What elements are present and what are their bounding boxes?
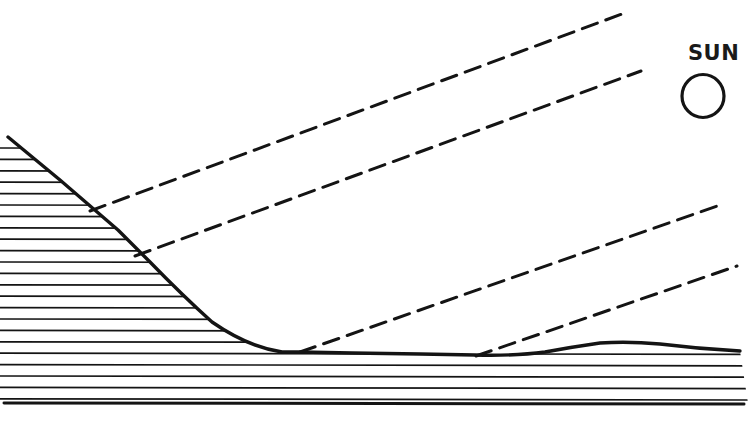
hatch-line — [0, 228, 748, 229]
hatch-line — [0, 285, 748, 286]
sun-label: SUN — [688, 41, 739, 65]
hatch-line — [0, 365, 748, 366]
ground-baseline — [4, 403, 744, 404]
hatch-line — [0, 239, 748, 240]
hatch-line — [0, 296, 748, 297]
hatch-line — [0, 159, 748, 160]
solar-terrain-diagram: SUN — [0, 0, 748, 421]
hatch-line — [0, 205, 748, 206]
solar-rays — [90, 14, 737, 356]
sun-symbol: SUN — [682, 41, 739, 118]
hatch-line — [0, 171, 748, 172]
hatch-line — [0, 262, 748, 263]
ground-hatching — [0, 148, 748, 400]
hatch-line — [0, 319, 748, 320]
sun-circle-icon — [682, 75, 724, 118]
hatch-line — [0, 330, 748, 331]
hatch-line — [0, 399, 748, 400]
solar-ray-second — [135, 71, 641, 256]
diagram-canvas: SUN — [0, 0, 748, 421]
hatch-line — [0, 148, 748, 149]
hatch-line — [0, 182, 748, 183]
solar-ray-upper — [90, 14, 622, 211]
solar-ray-third — [300, 204, 723, 352]
hatch-line — [0, 216, 748, 217]
hatch-line — [0, 308, 748, 309]
hatch-line — [0, 376, 748, 377]
hatch-line — [0, 387, 748, 388]
hatch-line — [0, 273, 748, 274]
hatch-line — [0, 251, 748, 252]
hatch-line — [0, 194, 748, 195]
